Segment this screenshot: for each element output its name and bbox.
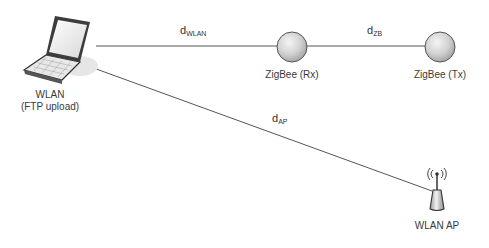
distance-label-ap: dAP — [272, 112, 287, 125]
laptop-label: WLAN (FTP upload) — [10, 89, 90, 113]
zigbee-rx-label: ZigBee (Rx) — [262, 69, 322, 80]
distance-label-wlan: dWLAN — [180, 24, 206, 37]
distance-subscript: WLAN — [186, 30, 206, 37]
zigbee-rx-node[interactable] — [277, 32, 307, 62]
wifi-access-point-icon[interactable] — [428, 168, 447, 211]
distance-subscript: ZB — [373, 30, 382, 37]
distance-label-zb: dZB — [367, 24, 382, 37]
diagram-canvas — [0, 0, 489, 248]
laptop-label-line1: WLAN — [10, 89, 90, 101]
link-ap — [88, 66, 432, 191]
zigbee-tx-label: ZigBee (Tx) — [410, 69, 470, 80]
distance-subscript: AP — [278, 118, 287, 125]
laptop-icon — [24, 16, 98, 84]
zigbee-tx-node[interactable] — [425, 32, 455, 62]
laptop-label-line2: (FTP upload) — [10, 101, 90, 113]
wlan-ap-label: WLAN AP — [407, 220, 467, 231]
